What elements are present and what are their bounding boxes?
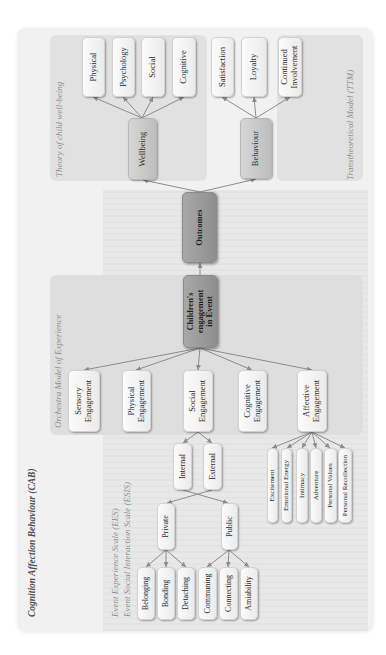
node-communing: Communing [198,567,217,620]
node-label: Psychology [119,47,129,87]
node-cognitive: Cognitive [172,37,196,97]
node-label: Public [225,516,234,536]
node-label: Detaching [181,577,190,610]
node-outcomes: Outcomes [182,192,217,263]
node-emotional-energy: Emotional Energy [281,448,292,523]
node-connecting: Connecting [219,567,238,620]
node-amiability: Amiability [240,567,258,620]
node-label-line: Involvement [290,46,300,89]
node-psychology: Psychology [112,37,135,97]
node-label-line: Engagement [84,380,94,422]
node-personal-recollection: Personal Recollection [338,448,352,523]
node-internal: Internal [173,443,192,490]
node-label: Social [148,56,158,77]
node-cognitive-engagement: Cognitive Engagement [238,370,267,432]
node-label: Cognitive [179,50,189,84]
node-adventure: Adventure [310,448,322,523]
node-label-line: in Event [205,296,215,326]
node-label-line: Engagement [312,380,322,422]
node-sensory-engagement: Sensory Engagement [68,370,100,432]
node-public: Public [221,503,238,550]
node-label: Belonging [141,577,150,610]
node-external: External [203,443,222,490]
node-label: Private [161,515,170,538]
node-intimacy: Intimacy [296,448,308,523]
node-label: Excitement [268,470,276,502]
node-belonging: Belonging [137,567,155,620]
node-label: Satisfaction [218,47,228,87]
node-private: Private [157,503,175,550]
node-bonding: Bonding [157,567,175,620]
node-label: Communing [203,574,212,614]
node-social-engagement: Social Engagement [183,370,213,432]
rotated-figure: Theory of child well-being Transtheoreti… [0,0,386,655]
node-label: Outcomes [195,209,205,245]
node-label: Adventure [312,471,320,501]
node-label-line: Engagement [253,380,263,422]
node-physical: Physical [82,37,105,97]
node-label: Connecting [224,575,233,612]
node-label: Loyalty [249,54,259,80]
node-excitement: Excitement [267,448,278,523]
node-detaching: Detaching [177,567,195,620]
node-social: Social [141,37,165,97]
node-personal-values: Personal Values [324,448,337,523]
node-loyalty: Loyalty [241,37,267,97]
node-label: Internal [178,454,187,479]
node-wellbeing: Wellbeing [128,118,157,180]
node-affective-engagement: Affective Engagement [297,370,327,432]
node-label-line: Engagement [198,380,208,422]
node-label: Emotional Energy [282,460,290,511]
node-label: External [208,453,217,480]
node-label: Personal Values [326,463,334,507]
node-childrens-engagement: Children's engagement in Event [183,275,218,348]
node-label: Wellbeing [138,132,148,167]
node-label: Bonding [161,580,170,608]
node-behaviour: Behaviour [240,118,272,179]
node-satisfaction: Satisfaction [211,37,234,97]
node-label: Personal Recollection [341,455,349,516]
node-label: Behaviour [251,131,261,166]
node-continued-involvement: Continued Involvement [278,37,302,97]
node-physical-engagement: Physical Engagement [122,370,151,432]
node-label: Intimacy [298,473,306,498]
node-label: Amiability [244,576,253,611]
node-label-line: Engagement [137,380,147,422]
node-label: Physical [89,53,99,82]
